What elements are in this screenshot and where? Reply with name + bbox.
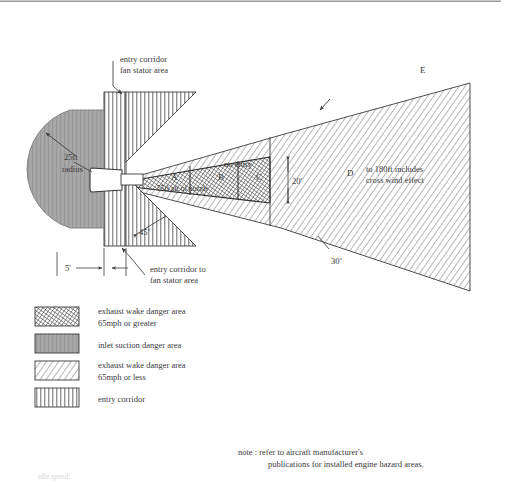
label-angle-45: 45˚ — [139, 227, 151, 237]
label-radius-line2: radius — [62, 164, 83, 174]
label-zone-a: A — [171, 172, 178, 182]
label-dim-20ft: 20' — [292, 176, 303, 186]
label-dim-5ft: 5' — [65, 263, 71, 273]
note-line-2: publications for installed engine hazard… — [268, 459, 424, 469]
label-cross-wind-line2: cross wind effect — [366, 175, 425, 185]
note-line-1: note : refer to aircraft manufacturer's — [238, 447, 363, 457]
label-entry-corridor-top-line1: entry corridor — [120, 54, 167, 64]
legend-label-1-line1: exhaust wake danger area — [98, 306, 186, 316]
label-aft-of-nozzle: 55ft aft of nozzle — [157, 184, 209, 193]
legend-swatch-exhaust-greater — [35, 307, 79, 326]
label-zone-b: B — [218, 172, 224, 182]
label-idle-speed: idle speed: — [38, 472, 70, 481]
legend-label-3-line1: exhaust wake danger area — [98, 360, 186, 370]
label-entry-corridor-bottom-line1: entry corridor to — [150, 264, 206, 274]
label-zone-d: D — [347, 168, 354, 178]
legend-swatch-exhaust-less — [35, 361, 79, 380]
legend-swatch-inlet-suction — [35, 334, 79, 353]
label-radius-line1: 25ft — [64, 152, 78, 162]
leader-entry-corridor-bottom — [122, 248, 145, 275]
note-block: note : refer to aircraft manufacturer's … — [238, 447, 424, 469]
legend-label-2-line1: inlet suction danger area — [98, 340, 182, 350]
label-no-entry: no entry — [224, 159, 253, 169]
label-zone-c: C — [256, 172, 262, 182]
label-cross-wind-line1: to 180ft includes — [366, 164, 423, 174]
label-entry-corridor-top-line2: fan stator area — [120, 65, 168, 75]
engine-hazard-diagram: entry corridor fan stator area 25ft radi… — [0, 0, 516, 481]
label-zone-e: E — [420, 65, 426, 75]
label-entry-corridor-bottom-line2: fan stator area — [150, 275, 198, 285]
legend-label-1-line2: 65mph or greater — [98, 318, 157, 328]
leader-e — [320, 99, 330, 110]
legend-label-4-line1: entry corridor — [98, 394, 145, 404]
legend-label-3-line2: 65mph or less — [98, 372, 146, 382]
legend-swatch-entry-corridor — [35, 388, 79, 407]
legend: exhaust wake danger area 65mph or greate… — [35, 306, 186, 407]
label-angle-30: 30˚ — [331, 256, 343, 266]
